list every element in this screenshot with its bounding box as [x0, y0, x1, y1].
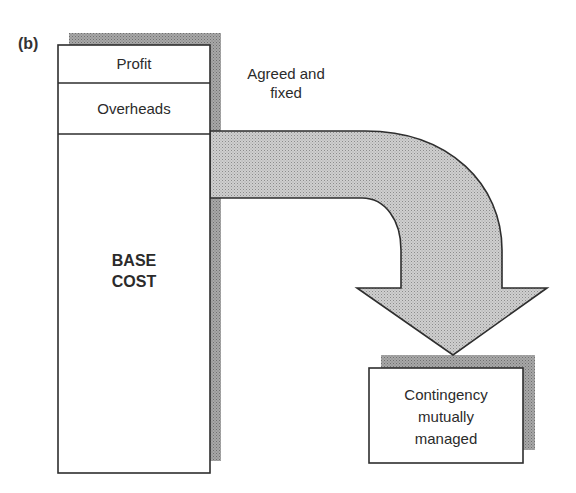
- arrow-annotation: Agreed and fixed: [226, 64, 346, 102]
- arrow-annotation-line1: Agreed and: [226, 64, 346, 83]
- contingency-line2: mutually: [369, 406, 523, 428]
- segment-base-cost-label: BASE COST: [58, 250, 210, 292]
- base-cost-line1: BASE: [58, 250, 210, 271]
- contingency-label: Contingency mutually managed: [369, 384, 523, 450]
- contingency-line3: managed: [369, 428, 523, 450]
- curved-arrow-icon: [210, 131, 547, 355]
- contingency-line1: Contingency: [369, 384, 523, 406]
- panel-label: (b): [18, 34, 38, 53]
- segment-profit-label: Profit: [58, 54, 210, 73]
- segment-overheads-label: Overheads: [58, 99, 210, 118]
- base-cost-line2: COST: [58, 271, 210, 292]
- arrow-annotation-line2: fixed: [226, 83, 346, 102]
